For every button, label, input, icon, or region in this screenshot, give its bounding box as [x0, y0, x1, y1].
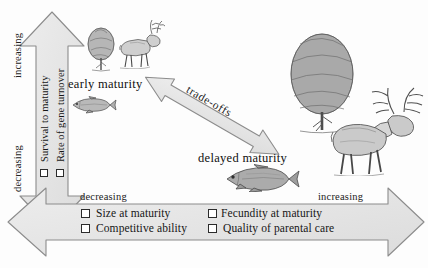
deer-large-icon: [330, 84, 428, 176]
horizontal-axis-left-label: decreasing: [80, 192, 127, 203]
horizontal-item-checkbox-fecundity-at-maturity[interactable]: [208, 209, 217, 218]
horizontal-item-label-size-at-maturity: Size at maturity: [96, 208, 170, 220]
vertical-item-checkbox-survival[interactable]: [40, 169, 48, 177]
fish-large-icon: [218, 164, 300, 192]
horizontal-item-checkbox-competitive-ability[interactable]: [81, 224, 90, 233]
horizontal-item-checkbox-size-at-maturity[interactable]: [81, 209, 90, 218]
vertical-axis-bottom-label: decreasing: [13, 145, 24, 192]
life-history-tradeoffs-figure: increasing decreasing Survival to maturi…: [0, 0, 428, 268]
horizontal-item-label-competitive-ability: Competitive ability: [96, 223, 187, 235]
fish-small-icon: [67, 96, 117, 114]
horizontal-item-checkbox-quality-of-parental-care[interactable]: [208, 224, 217, 233]
vertical-item-label-survival: Survival to maturity: [40, 75, 51, 162]
stage-label-delayed-maturity: delayed maturity: [198, 152, 287, 165]
tree-small-icon: [84, 24, 118, 72]
stage-label-early-maturity: early maturity: [68, 78, 143, 91]
horizontal-item-label-quality-of-parental-care: Quality of parental care: [223, 223, 334, 235]
horizontal-axis-right-label: increasing: [318, 192, 363, 203]
deer-small-icon: [116, 17, 166, 69]
vertical-axis-arrow-shape: [20, 12, 84, 230]
vertical-axis-top-label: increasing: [13, 33, 24, 78]
horizontal-item-label-fecundity-at-maturity: Fecundity at maturity: [221, 208, 322, 220]
vertical-item-checkbox-gene-turnover[interactable]: [56, 169, 64, 177]
vertical-item-label-gene-turnover: Rate of gene turnover: [56, 69, 67, 162]
